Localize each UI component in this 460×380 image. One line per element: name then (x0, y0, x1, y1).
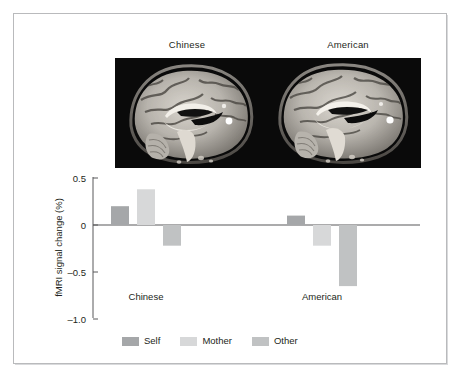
group-label-chinese: Chinese (129, 291, 164, 302)
legend-label-mother: Mother (202, 336, 232, 346)
legend-label-other: Other (274, 336, 298, 346)
group-label-american: American (302, 291, 342, 302)
bar-american-mother[interactable] (313, 225, 331, 246)
bar-american-self[interactable] (287, 216, 305, 225)
bar-chinese-self[interactable] (111, 206, 129, 225)
y-axis-tick-label: 0 (81, 220, 86, 231)
legend-item-other: Other (252, 336, 298, 346)
bar-chinese-mother[interactable] (137, 189, 155, 225)
y-axis-title: fMRI signal change (%) (53, 198, 64, 297)
legend-item-self: Self (122, 336, 160, 346)
legend-label-self: Self (144, 336, 160, 346)
y-axis-tick-label: –0.5 (68, 267, 87, 278)
legend-swatch-self (122, 337, 139, 346)
figure-root: Chinese American (0, 0, 460, 380)
y-axis-tick-label: –1.0 (68, 314, 87, 325)
bar-chinese-other[interactable] (163, 225, 181, 246)
bar-american-other[interactable] (339, 225, 357, 286)
y-axis-tick-label: 0.5 (73, 173, 86, 184)
chart-legend: Self Mother Other (122, 334, 342, 348)
legend-swatch-mother (180, 337, 197, 346)
legend-item-mother: Mother (180, 336, 232, 346)
legend-swatch-other (252, 337, 269, 346)
bar-chart: 0.50–0.5–1.0fMRI signal change (%)Chines… (0, 0, 460, 380)
